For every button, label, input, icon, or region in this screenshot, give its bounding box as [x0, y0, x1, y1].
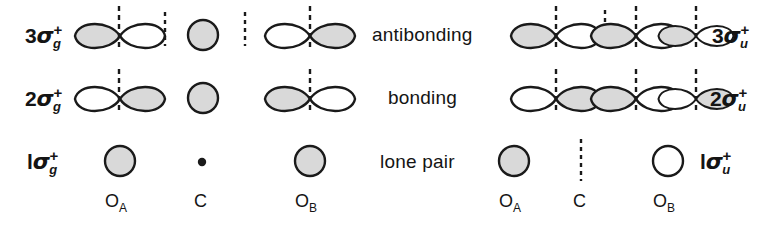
atom-subscript: A	[513, 201, 521, 215]
mo-diagram-canvas: 3σ+g antibonding	[0, 0, 768, 231]
node-line-g-bonding-OA	[116, 69, 122, 113]
atom-element: O	[295, 191, 309, 211]
label-principal-number: 3	[25, 24, 36, 47]
atom-element: C	[194, 191, 207, 211]
atom-subscript: A	[119, 201, 127, 215]
row-antibonding-right-symmetry-label: 3σ+u	[712, 22, 748, 50]
row-lone-pair-right-symmetry-label: lσ+u	[700, 148, 730, 176]
label-sigma-glyph: σ	[36, 23, 53, 48]
orbital-s-g-lone-pair-OB	[292, 143, 328, 179]
node-line-u-bonding-OB	[693, 69, 699, 113]
atom-label-right-OB: OB	[653, 192, 675, 214]
row-lone-pair-left-symmetry-label: lσ+g	[27, 148, 57, 176]
label-subscript: u	[738, 99, 746, 114]
atom-element: C	[573, 191, 586, 211]
label-principal-number: 2	[710, 87, 721, 110]
row-label-lone-pair: lone pair	[380, 152, 455, 171]
label-sigma-glyph: σ	[706, 149, 723, 174]
node-line-u-bonding-OA	[553, 69, 559, 113]
node-line-u-antibonding-C	[633, 6, 639, 50]
atom-label-left-OB: OB	[295, 192, 317, 214]
label-sigma-glyph: σ	[723, 23, 740, 48]
node-line-g-antibonding-OB	[307, 6, 313, 50]
atom-element: O	[653, 191, 667, 211]
label-principal-number: 2	[25, 87, 36, 110]
row-label-antibonding: antibonding	[372, 25, 472, 44]
row-label-bonding: bonding	[388, 88, 457, 107]
orbital-s-g-antibonding-C	[185, 17, 221, 53]
label-subscript: g	[49, 162, 57, 177]
label-subscript: g	[53, 99, 61, 114]
label-subscript: u	[722, 162, 730, 177]
separator-line-g-antibonding-2	[242, 12, 248, 46]
atom-element: O	[499, 191, 513, 211]
node-line-g-antibonding-OA	[116, 6, 122, 50]
atom-label-left-C: C	[194, 192, 207, 214]
label-subscript: g	[53, 36, 61, 51]
label-subscript: u	[740, 36, 748, 51]
atom-label-right-OA: OA	[499, 192, 521, 214]
atom-element: O	[105, 191, 119, 211]
row-antibonding-left-symmetry-label: 3σ+g	[25, 22, 61, 50]
node-line-u-antibonding-OB	[693, 6, 699, 50]
node-line-u-antibonding-OA	[553, 6, 559, 50]
label-sigma-glyph: σ	[721, 86, 738, 111]
row-bonding-left-symmetry-label: 2σ+g	[25, 85, 61, 113]
label-principal-number: 3	[712, 24, 723, 47]
node-line-u-lone-pair-C	[578, 139, 584, 181]
label-sigma-glyph: σ	[33, 149, 50, 174]
atom-subscript: B	[667, 201, 675, 215]
orbital-s-u-lone-pair-OA	[496, 143, 532, 179]
atom-subscript: B	[309, 201, 317, 215]
atom-label-right-C: C	[573, 192, 586, 214]
node-line-u-bonding-C	[633, 69, 639, 113]
label-sigma-glyph: σ	[36, 86, 53, 111]
orbital-s-g-bonding-C	[185, 80, 221, 116]
separator-line-g-antibonding-1	[162, 12, 168, 46]
node-line-g-bonding-OB	[307, 69, 313, 113]
orbital-dot-g-lone-pair-C	[192, 152, 212, 172]
orbital-s-u-lone-pair-OB	[650, 143, 686, 179]
row-bonding-right-symmetry-label: 2σ+u	[710, 85, 746, 113]
orbital-s-g-lone-pair-OA	[102, 143, 138, 179]
atom-label-left-OA: OA	[105, 192, 127, 214]
